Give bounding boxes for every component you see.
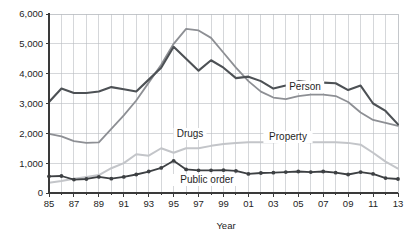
data-point-public-order (134, 173, 138, 177)
data-point-public-order (222, 168, 226, 172)
x-axis-tick-label: 05 (293, 198, 304, 209)
data-point-public-order (371, 172, 375, 176)
data-point-public-order (359, 170, 363, 174)
data-point-public-order (309, 170, 313, 174)
data-point-public-order (60, 174, 64, 178)
data-point-public-order (271, 171, 275, 175)
x-axis-tick-label: 95 (168, 198, 179, 209)
x-axis-title: Year (216, 220, 235, 231)
data-point-public-order (346, 173, 350, 177)
series-label-public-order: Public order (180, 174, 234, 185)
x-axis-tick-label: 07 (318, 198, 329, 209)
y-axis-tick-label: 6,000 (19, 8, 43, 19)
y-axis-tick-label: 4,000 (19, 68, 43, 79)
data-point-public-order (259, 171, 263, 175)
axes (46, 13, 399, 197)
data-point-public-order (147, 170, 151, 174)
gridlines (49, 14, 398, 193)
data-point-public-order (97, 175, 101, 179)
y-axis-tick-label: 0 (38, 187, 43, 198)
series-label-person: Person (289, 81, 321, 92)
data-point-public-order (109, 177, 113, 181)
data-point-public-order (296, 170, 300, 174)
data-point-public-order (284, 170, 288, 174)
data-point-public-order (72, 178, 76, 182)
data-point-public-order (247, 172, 251, 176)
x-axis-tick-label: 97 (193, 198, 204, 209)
x-axis-tick-label: 99 (218, 198, 229, 209)
data-point-public-order (334, 171, 338, 175)
x-axis-tick-labels: 858789919395979901030507091113 (44, 198, 404, 209)
y-axis-tick-labels: 01,0002,0003,0004,0005,0006,000 (19, 8, 43, 198)
data-point-public-order (84, 177, 88, 181)
chart-canvas: 01,0002,0003,0004,0005,0006,000 85878991… (0, 0, 406, 234)
y-axis-tick-label: 3,000 (19, 98, 43, 109)
x-axis-tick-label: 87 (69, 198, 80, 209)
data-point-public-order (321, 170, 325, 174)
y-axis-tick-label: 2,000 (19, 128, 43, 139)
data-point-public-order (122, 175, 126, 179)
series-label-drugs: Drugs (177, 128, 204, 139)
x-axis-tick-label: 13 (393, 198, 404, 209)
x-axis-tick-label: 01 (243, 198, 254, 209)
x-axis-tick-label: 03 (268, 198, 279, 209)
data-point-public-order (396, 177, 400, 181)
line-chart: 01,0002,0003,0004,0005,0006,000 85878991… (0, 0, 406, 234)
data-point-public-order (184, 168, 188, 172)
data-point-public-order (209, 168, 213, 172)
data-point-public-order (159, 166, 163, 170)
data-point-public-order (234, 169, 238, 173)
x-axis-tick-label: 93 (143, 198, 154, 209)
x-axis-tick-label: 11 (368, 198, 378, 209)
y-axis-tick-label: 1,000 (19, 158, 43, 169)
data-point-public-order (172, 159, 176, 163)
y-axis-tick-label: 5,000 (19, 38, 43, 49)
data-point-public-order (197, 168, 201, 172)
x-axis-tick-label: 91 (118, 198, 129, 209)
x-axis-tick-label: 89 (94, 198, 105, 209)
x-axis-tick-label: 85 (44, 198, 55, 209)
x-axis-tick-label: 09 (343, 198, 354, 209)
series-label-property: Property (269, 131, 307, 142)
data-point-public-order (384, 176, 388, 180)
